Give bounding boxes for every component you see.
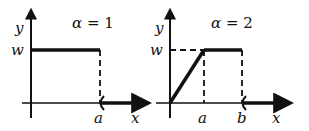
ramp-line (170, 50, 204, 103)
equals-sign: = (221, 14, 243, 32)
tick-label-a: a (198, 109, 207, 127)
x-axis-label: x (272, 109, 281, 127)
alpha-symbol: α (211, 14, 221, 32)
panel-title: α = 2 (211, 14, 253, 32)
alpha-value: 1 (104, 14, 114, 32)
panel-title: α = 1 (72, 14, 114, 32)
x-axis-label: x (131, 109, 140, 127)
y-axis-label: y (14, 19, 24, 37)
tick-label-b: b (237, 109, 247, 127)
y-axis-label: y (154, 19, 164, 37)
level-label-w: w (150, 41, 163, 59)
alpha-value: 2 (243, 14, 253, 32)
diagram-canvas: y w α = 1 a x y w α = 2 a b x (0, 0, 309, 131)
alpha-symbol: α (72, 14, 82, 32)
panel-alpha-2: y w α = 2 a b x (150, 10, 290, 127)
tick-label-a: a (94, 109, 103, 127)
level-label-w: w (11, 41, 24, 59)
equals-sign: = (82, 14, 104, 32)
panel-alpha-1: y w α = 1 a x (11, 10, 148, 127)
